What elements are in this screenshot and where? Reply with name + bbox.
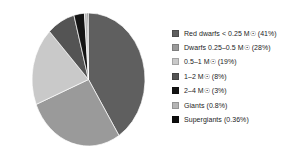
legend-item-label: Red dwarfs < 0.25 M☉ (41%) (184, 29, 277, 38)
legend-item[interactable]: Supergiants (0.36%) (172, 112, 305, 126)
pie-chart-plot-area (0, 0, 175, 161)
legend-swatch-icon (172, 73, 179, 80)
legend-swatch-icon (172, 58, 179, 65)
legend-item-label: Supergiants (0.36%) (184, 115, 249, 124)
legend-item-label: 2–4 M☉ (3%) (184, 86, 227, 95)
pie-chart-figure: Red dwarfs < 0.25 M☉ (41%)Dwarfs 0.25–0.… (0, 0, 305, 161)
legend-item[interactable]: Dwarfs 0.25–0.5 M☉ (28%) (172, 40, 305, 54)
legend-item-label: Dwarfs 0.25–0.5 M☉ (28%) (184, 43, 271, 52)
legend-swatch-icon (172, 87, 179, 94)
pie-chart-svg (31, 12, 146, 147)
legend-item-label: Giants (0.8%) (184, 101, 227, 110)
legend-swatch-icon (172, 116, 179, 123)
legend-item[interactable]: 1–2 M☉ (8%) (172, 69, 305, 83)
legend-item-label: 0.5–1 M☉ (19%) (184, 57, 237, 66)
legend-swatch-icon (172, 102, 179, 109)
legend-item[interactable]: Red dwarfs < 0.25 M☉ (41%) (172, 26, 305, 40)
chart-legend: Red dwarfs < 0.25 M☉ (41%)Dwarfs 0.25–0.… (172, 26, 305, 127)
legend-swatch-icon (172, 30, 179, 37)
legend-item[interactable]: 2–4 M☉ (3%) (172, 84, 305, 98)
legend-item[interactable]: 0.5–1 M☉ (19%) (172, 55, 305, 69)
legend-item-label: 1–2 M☉ (8%) (184, 72, 227, 81)
legend-item[interactable]: Giants (0.8%) (172, 98, 305, 112)
legend-swatch-icon (172, 44, 179, 51)
